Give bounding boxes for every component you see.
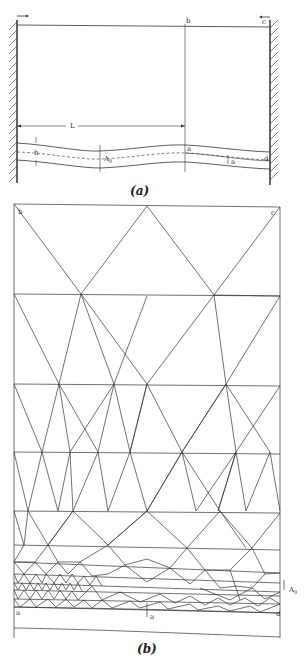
figure-a [9,15,278,186]
right-wall-hatch [270,20,278,180]
label-a-bottom: a [150,613,154,621]
label-a-center: a [187,145,191,153]
top-line [17,25,270,27]
label-L: L [70,122,75,130]
label-a: a [16,609,20,617]
label-d: d [264,155,269,163]
figure-canvas: b c L h A0 a a d (a) [0,0,308,663]
figure-b [14,204,284,638]
left-wall-hatch [9,22,17,182]
wave-upper-boundary [17,143,270,152]
caption-b: (b) [137,642,157,656]
caption-a: (a) [130,184,149,198]
label-b: b [18,208,23,216]
label-d: d [276,610,281,618]
label-b-top: b [186,17,191,25]
lower-boundary [14,628,280,637]
label-c-top: c [262,18,266,26]
label-h: h [34,149,39,157]
label-a-right: a [231,158,235,166]
label-A0: A0 [288,586,297,595]
label-c: c [271,209,275,217]
label-A0: A0 [103,155,112,164]
